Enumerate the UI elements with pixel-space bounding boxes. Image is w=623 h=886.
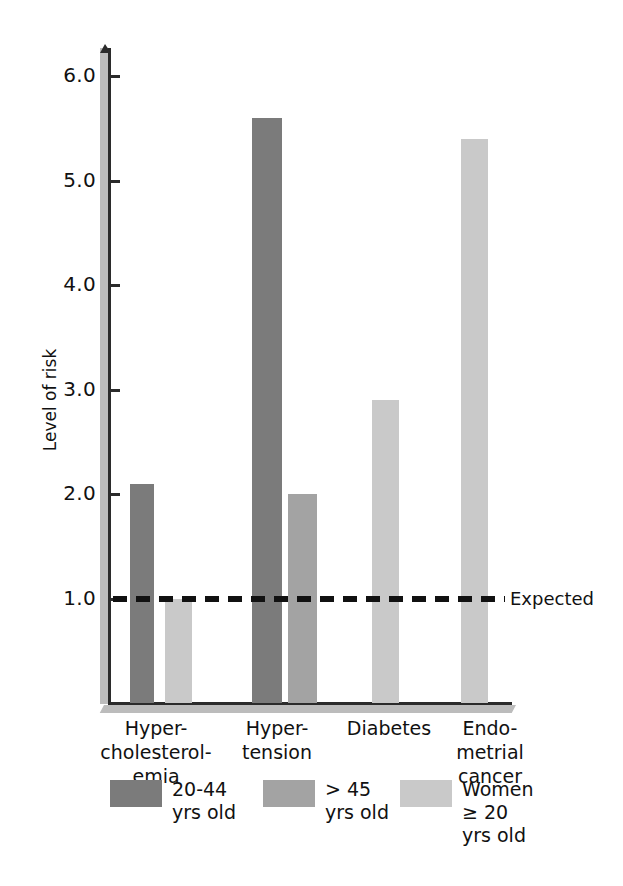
bar-endometrial-cancer-women-20 [461, 139, 488, 703]
y-tick-2.0 [109, 493, 120, 496]
x-axis-shadow [100, 705, 516, 713]
y-axis-title: Level of risk [40, 310, 60, 490]
legend-label-1: > 45 yrs old [325, 778, 389, 824]
category-label-1: Hyper- tension [222, 716, 332, 764]
legend-label-2: Women ≥ 20 yrs old [462, 778, 534, 847]
legend-item-0: 20-44 yrs old [110, 778, 236, 824]
y-tick-label-5.0: 5.0 [36, 170, 96, 190]
bar-hypercholesterolemia-20-44 [130, 484, 154, 703]
bar-diabetes-women-20 [372, 400, 399, 703]
expected-label: Expected [510, 588, 594, 609]
bar-hypercholesterolemia-women-20 [165, 599, 192, 704]
risk-bar-chart: 1.02.03.04.05.06.0 Level of risk Expecte… [0, 0, 623, 886]
y-tick-label-6.0: 6.0 [36, 65, 96, 85]
legend-item-1: > 45 yrs old [263, 778, 389, 824]
legend-swatch-2 [400, 780, 452, 807]
plot-area: 1.02.03.04.05.06.0 Level of risk Expecte… [0, 0, 623, 720]
y-tick-4.0 [109, 284, 120, 287]
y-axis-line [108, 48, 111, 704]
y-tick-3.0 [109, 389, 120, 392]
legend-swatch-1 [263, 780, 315, 807]
category-label-2: Diabetes [334, 716, 444, 740]
legend-label-0: 20-44 yrs old [172, 778, 236, 824]
y-tick-label-4.0: 4.0 [36, 274, 96, 294]
expected-dashed-line [113, 596, 505, 602]
legend-item-2: Women ≥ 20 yrs old [400, 778, 534, 847]
y-axis-arrow-cap [100, 44, 111, 53]
y-tick-label-1.0: 1.0 [36, 588, 96, 608]
chart-legend: 20-44 yrs old> 45 yrs oldWomen ≥ 20 yrs … [0, 778, 623, 878]
y-tick-6.0 [109, 75, 120, 78]
legend-swatch-0 [110, 780, 162, 807]
bar-hypertension-20-44 [252, 118, 282, 703]
y-axis-shadow [100, 48, 108, 704]
y-tick-5.0 [109, 180, 120, 183]
